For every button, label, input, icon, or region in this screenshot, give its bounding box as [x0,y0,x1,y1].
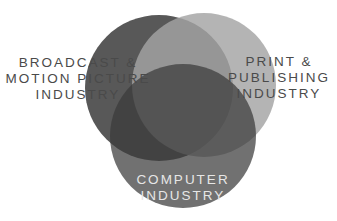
broadcast-label-line-2: MOTION PICTURE [6,71,151,86]
print-label-line-2: PUBLISHING [228,70,330,85]
print-label-line-3: INDUSTRY [237,86,322,101]
computer-label: COMPUTER INDUSTRY [136,172,229,203]
broadcast-label-line-1: BROADCAST & [19,55,138,70]
venn-diagram: BROADCAST & MOTION PICTURE INDUSTRY PRIN… [0,0,337,221]
print-label-line-1: PRINT & [245,54,312,69]
computer-label-line-2: INDUSTRY [141,188,226,203]
broadcast-label-line-3: INDUSTRY [36,87,121,102]
computer-label-line-1: COMPUTER [136,172,229,187]
